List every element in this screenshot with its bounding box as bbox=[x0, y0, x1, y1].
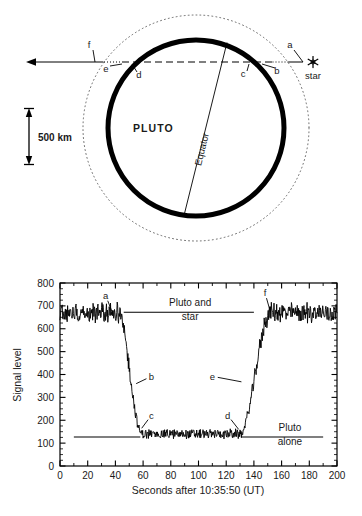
x-tick-label: 200 bbox=[329, 470, 346, 481]
annotation-label-e: e bbox=[210, 371, 215, 382]
x-tick-label: 180 bbox=[301, 470, 318, 481]
y-tick-label: 0 bbox=[48, 461, 54, 472]
point-label-f: f bbox=[88, 39, 91, 50]
y-tick-label: 100 bbox=[37, 438, 54, 449]
scale-bar-label: 500 km bbox=[38, 132, 72, 143]
y-tick-label: 700 bbox=[37, 300, 54, 311]
pluto-alone-line1: Pluto bbox=[279, 422, 302, 433]
y-tick-label: 800 bbox=[37, 278, 54, 289]
y-tick-label: 600 bbox=[37, 323, 54, 334]
x-axis-title: Seconds after 10:35:50 (UT) bbox=[132, 484, 265, 496]
x-tick-label: 140 bbox=[246, 470, 263, 481]
annotation-label-c: c bbox=[149, 410, 154, 421]
annotation-label-f: f bbox=[264, 287, 267, 298]
point-label-d: d bbox=[136, 69, 141, 80]
pluto-alone-line2: alone bbox=[278, 436, 303, 447]
y-tick-label: 300 bbox=[37, 392, 54, 403]
x-tick-label: 0 bbox=[57, 470, 63, 481]
pluto-and-star-line1: Pluto and bbox=[169, 297, 211, 308]
x-tick-label: 80 bbox=[165, 470, 177, 481]
annotation-label-a: a bbox=[103, 290, 109, 301]
x-tick-label: 160 bbox=[273, 470, 290, 481]
point-label-b: b bbox=[274, 65, 279, 76]
star-label: star bbox=[305, 70, 321, 81]
x-tick-label: 20 bbox=[82, 470, 94, 481]
y-tick-label: 500 bbox=[37, 346, 54, 357]
y-tick-label: 400 bbox=[37, 369, 54, 380]
x-tick-label: 40 bbox=[110, 470, 122, 481]
figure-canvas: Equator PLUTO star 500 km bbox=[0, 0, 362, 516]
occultation-figure: Equator PLUTO star 500 km bbox=[0, 0, 362, 516]
pluto-label: PLUTO bbox=[133, 122, 174, 134]
point-label-c: c bbox=[241, 68, 246, 79]
y-tick-label: 200 bbox=[37, 415, 54, 426]
annotation-label-d: d bbox=[225, 410, 230, 421]
x-tick-label: 100 bbox=[190, 470, 207, 481]
x-tick-label: 60 bbox=[138, 470, 150, 481]
pluto-and-star-line2: star bbox=[182, 311, 199, 322]
point-label-a: a bbox=[287, 39, 293, 50]
y-axis-title: Signal level bbox=[11, 348, 23, 402]
annotation-label-b: b bbox=[149, 371, 154, 382]
x-tick-label: 120 bbox=[218, 470, 235, 481]
point-label-e: e bbox=[103, 63, 108, 74]
